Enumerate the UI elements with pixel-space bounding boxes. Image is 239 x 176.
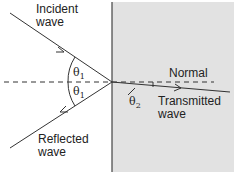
theta1-upper-symbol: θ	[73, 66, 80, 79]
theta1-lower-subscript: 1	[80, 91, 85, 100]
incident-wave-label: Incident wave	[36, 3, 78, 29]
theta2-subscript: 2	[136, 101, 141, 110]
reflected-label-line2: wave	[38, 146, 89, 159]
theta2-label: θ2	[129, 95, 141, 110]
theta1-upper-subscript: 1	[80, 72, 85, 81]
reflected-wave-label: Reflected wave	[38, 133, 89, 159]
theta1-upper-label: θ1	[73, 66, 85, 81]
theta2-symbol: θ	[129, 95, 136, 108]
incident-label-line2: wave	[36, 16, 78, 29]
transmitted-label-line2: wave	[158, 108, 221, 121]
theta1-lower-symbol: θ	[73, 85, 80, 98]
theta1-lower-label: θ1	[73, 85, 85, 100]
transmitted-wave-label: Transmitted wave	[158, 95, 221, 121]
normal-label: Normal	[169, 67, 208, 80]
incident-arrow-icon	[56, 47, 64, 52]
